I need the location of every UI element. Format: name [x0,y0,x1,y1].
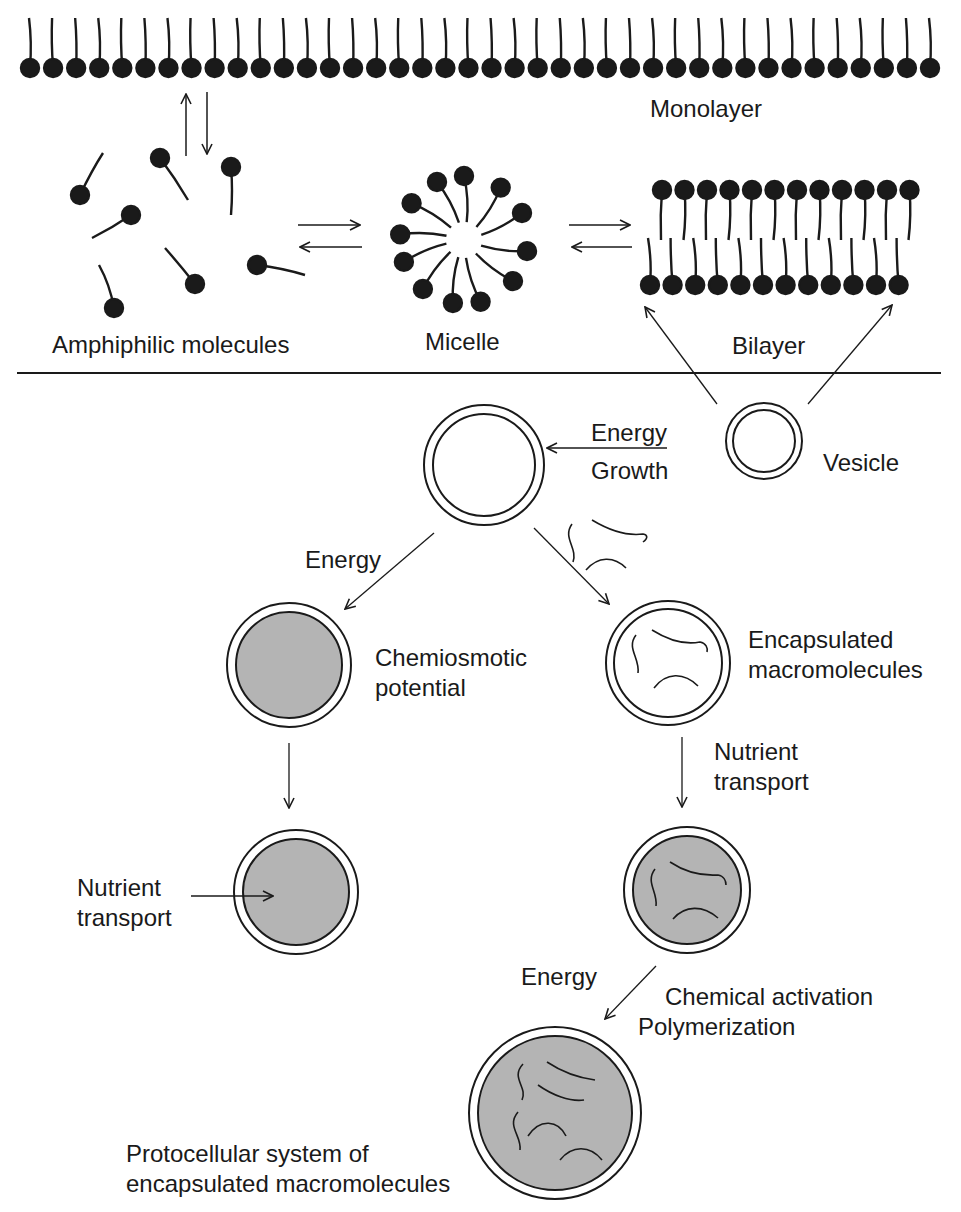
growth-energy-label: Energy [591,418,667,448]
bilayer-equilibrium-arrows [569,225,632,247]
vertical-arrows [289,737,682,808]
right-nutrient-line1: Nutrient [714,737,809,767]
protocell-icon [469,1027,641,1199]
micelle-label: Micelle [425,327,500,357]
free-macromolecules-icon [569,520,647,570]
protocell-formation-diagram: Monolayer Amphiphilic molecules Micelle … [0,0,961,1212]
chemiosmotic-label: Chemiosmotic potential [375,643,527,703]
micelle-icon [391,167,536,312]
amphiphilic-molecules-icon [71,149,305,317]
micelle-equilibrium-arrows [298,225,362,247]
protocell-line2: encapsulated macromolecules [126,1169,450,1199]
right-nutrient-line2: transport [714,767,809,797]
encapsulated-label: Encapsulated macromolecules [748,625,923,685]
growth-label: Growth [591,456,668,486]
vesicle-label: Vesicle [823,448,899,478]
protocell-label: Protocellular system of encapsulated mac… [126,1139,450,1199]
chemiosmotic-vesicle-icon [227,603,351,727]
left-nutrient-line1: Nutrient [77,873,172,903]
chemiosmotic-line2: potential [375,673,527,703]
activation-line2: Polymerization [638,1012,873,1042]
bilayer-label: Bilayer [732,331,805,361]
monolayer-equilibrium-arrows [186,92,207,156]
nutrient-vesicle-icon [234,830,358,954]
amphiphilic-molecules-label: Amphiphilic molecules [52,330,289,360]
left-nutrient-label: Nutrient transport [77,873,172,933]
filled-macromolecule-vesicle-icon [624,827,750,953]
grown-vesicle-icon [424,405,544,525]
encapsulated-line2: macromolecules [748,655,923,685]
activation-label: Chemical activation Polymerization [638,982,873,1042]
monolayer-icon [21,18,939,77]
chemiosmotic-line1: Chemiosmotic [375,643,527,673]
encapsulated-vesicle-icon [606,601,730,725]
activation-line1: Chemical activation [638,982,873,1012]
bilayer-icon [641,181,919,294]
right-nutrient-label: Nutrient transport [714,737,809,797]
encapsulated-line1: Encapsulated [748,625,923,655]
left-energy-label: Energy [305,545,381,575]
left-nutrient-line2: transport [77,903,172,933]
protocell-line1: Protocellular system of [126,1139,450,1169]
vesicle-icon [726,403,802,479]
monolayer-label: Monolayer [650,94,762,124]
right-energy-label: Energy [521,962,597,992]
